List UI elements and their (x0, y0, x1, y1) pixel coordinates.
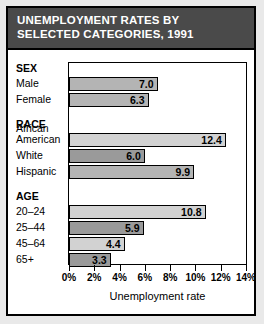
bar-value-label: 4.4 (106, 238, 121, 251)
chart-body: SEXMaleFemaleRACEAfricanAmericanWhiteHis… (8, 50, 254, 314)
x-axis-tick-label: 12% (211, 272, 231, 283)
chart-title-line-1: UNEMPLOYMENT RATES BY (17, 13, 254, 27)
bar-value-label: 9.9 (176, 166, 191, 179)
category-label: White (16, 149, 43, 161)
category-label: 20–24 (16, 205, 45, 217)
bar: 6.0 (69, 149, 145, 163)
category-label-line-2: American (16, 134, 60, 145)
bar: 10.8 (69, 205, 206, 219)
bar: 5.9 (69, 221, 144, 235)
x-axis-tick-label: 6% (138, 272, 152, 283)
category-label: 65+ (16, 253, 34, 265)
chart-title-bar: UNEMPLOYMENT RATES BY SELECTED CATEGORIE… (8, 8, 254, 50)
x-axis-tick (195, 265, 196, 271)
bar: 12.4 (69, 133, 226, 147)
bar-value-label: 6.3 (130, 94, 145, 107)
bar-value-label: 7.0 (139, 78, 154, 91)
group-heading-age: AGE (16, 190, 39, 202)
chart-figure: UNEMPLOYMENT RATES BY SELECTED CATEGORIE… (6, 6, 256, 316)
bar: 9.9 (69, 165, 194, 179)
category-label: 45–64 (16, 237, 45, 249)
category-label: Male (16, 77, 39, 89)
category-label: Hispanic (16, 165, 56, 177)
bar: 6.3 (69, 93, 149, 107)
category-label: AfricanAmerican (16, 123, 60, 145)
x-axis-title: Unemployment rate (68, 290, 247, 302)
category-label: Female (16, 93, 51, 105)
x-axis-tick-label: 0% (62, 272, 76, 283)
bar: 7.0 (69, 77, 158, 91)
bar-value-label: 12.4 (201, 134, 221, 147)
x-axis-tick (246, 265, 247, 271)
x-axis-tick (170, 265, 171, 271)
x-axis-tick-label: 4% (112, 272, 126, 283)
bar-value-label: 10.8 (181, 206, 201, 219)
x-axis-tick-label: 10% (185, 272, 205, 283)
x-axis-tick (145, 265, 146, 271)
x-axis-tick-label: 14% (236, 272, 256, 283)
x-axis-tick (221, 265, 222, 271)
category-label: 25–44 (16, 221, 45, 233)
x-axis-tick-labels: 0%2%4%6%8%10%12%14% (48, 272, 256, 286)
chart-title-line-2: SELECTED CATEGORIES, 1991 (17, 27, 254, 41)
bars-layer: 7.06.312.46.09.910.85.94.43.3 (69, 63, 246, 264)
x-axis-tick (69, 265, 70, 271)
bar: 4.4 (69, 237, 125, 251)
bar-value-label: 5.9 (125, 222, 140, 235)
group-heading-sex: SEX (16, 62, 37, 74)
x-axis-tick-label: 8% (163, 272, 177, 283)
x-axis-tick (94, 265, 95, 271)
x-axis-tick-label: 2% (87, 272, 101, 283)
x-axis-tick (120, 265, 121, 271)
bar-value-label: 6.0 (126, 150, 141, 163)
